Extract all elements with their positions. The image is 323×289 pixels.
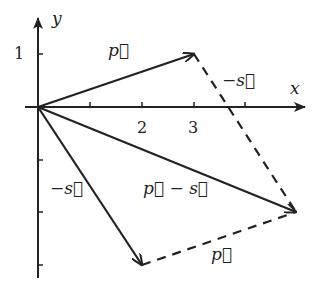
y-axis-label: y: [52, 8, 62, 28]
label-minus-s-right: −s⃗: [222, 70, 255, 90]
label-p-top: p⃗: [108, 40, 129, 60]
label-p-bottom: p⃗: [211, 244, 232, 264]
label-p-minus-s: p⃗ − s⃗: [143, 178, 208, 198]
vector-diagram: [0, 0, 323, 289]
y-axis: [38, 18, 43, 278]
label-minus-s-left: −s⃗: [50, 178, 83, 198]
y-tick-1: 1: [14, 44, 24, 63]
x-tick-3: 3: [188, 118, 198, 137]
vector-p: [38, 54, 194, 107]
x-axis-label: x: [290, 78, 300, 98]
x-axis: [25, 102, 305, 107]
x-tick-2: 2: [137, 118, 147, 137]
